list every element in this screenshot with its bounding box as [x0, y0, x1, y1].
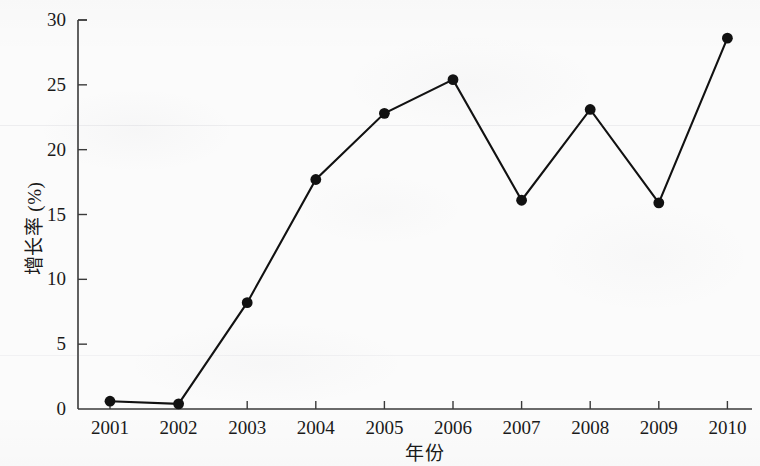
axes-group — [78, 20, 752, 409]
x-tick-label: 2005 — [365, 417, 403, 439]
x-tick-label: 2002 — [160, 417, 198, 439]
y-tick-label: 20 — [18, 139, 66, 161]
x-tick-label: 2006 — [434, 417, 472, 439]
x-tick-label: 2003 — [228, 417, 266, 439]
data-point-marker — [310, 174, 321, 185]
plot-area — [0, 0, 760, 466]
x-tick-label: 2004 — [297, 417, 335, 439]
data-point-marker — [105, 396, 116, 407]
data-point-marker — [379, 108, 390, 119]
x-axis-title: 年份 — [405, 438, 445, 465]
data-point-marker — [516, 195, 527, 206]
axis-ticks-group — [78, 20, 727, 409]
x-tick-label: 2010 — [708, 417, 746, 439]
data-point-marker — [722, 33, 733, 44]
y-tick-label: 5 — [18, 333, 66, 355]
y-tick-label: 25 — [18, 74, 66, 96]
x-tick-label: 2001 — [91, 417, 129, 439]
data-point-marker — [242, 297, 253, 308]
data-point-marker — [173, 398, 184, 409]
data-point-marker — [585, 104, 596, 115]
line-chart-figure: 增长率 (%) 年份 051015202530 2001200220032004… — [0, 0, 760, 466]
x-tick-label: 2007 — [503, 417, 541, 439]
y-tick-label: 0 — [18, 398, 66, 420]
data-point-marker — [448, 74, 459, 85]
data-point-marker — [653, 197, 664, 208]
y-tick-label: 10 — [18, 268, 66, 290]
data-series-group — [105, 33, 733, 409]
x-tick-label: 2009 — [640, 417, 678, 439]
y-tick-label: 30 — [18, 9, 66, 31]
series-line — [110, 38, 727, 404]
y-tick-label: 15 — [18, 204, 66, 226]
x-tick-label: 2008 — [571, 417, 609, 439]
